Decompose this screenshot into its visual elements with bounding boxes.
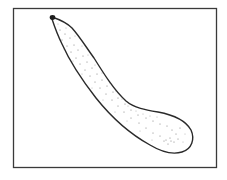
stem-icon (50, 15, 56, 20)
zucchini-illustration (0, 0, 227, 180)
illustration-canvas: zucchini (0, 0, 227, 180)
zucchini-outline-icon (52, 17, 193, 153)
